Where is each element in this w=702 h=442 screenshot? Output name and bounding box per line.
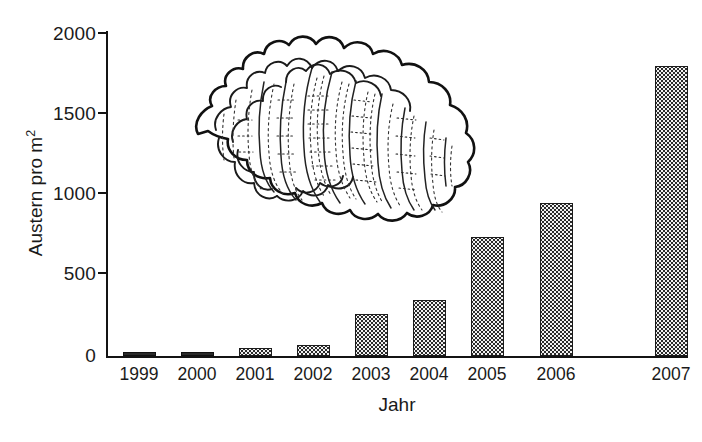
bar-2007: [655, 66, 688, 356]
x-tick-label-2004: 2004: [400, 364, 458, 384]
x-tick-label-2005: 2005: [458, 364, 516, 384]
bar-2000: [181, 352, 214, 356]
bar-2005: [471, 237, 504, 356]
bar-2006: [540, 203, 573, 356]
bar-1999: [123, 352, 156, 356]
bar-2004: [413, 300, 446, 356]
bar-2002: [297, 345, 330, 356]
x-tick-label-2007: 2007: [642, 364, 700, 384]
bar-2001: [239, 348, 272, 356]
bar-2003: [355, 314, 388, 356]
x-tick-label-1999: 1999: [110, 364, 168, 384]
x-tick-label-2003: 2003: [342, 364, 400, 384]
x-tick-label-2000: 2000: [168, 364, 226, 384]
x-axis-title: Jahr: [106, 394, 688, 416]
oyster-density-bar-chart: Austern pro m2 2000 1500 1000 500 0: [0, 0, 702, 442]
x-tick-label-2002: 2002: [284, 364, 342, 384]
x-tick-label-2006: 2006: [527, 364, 585, 384]
x-tick-label-2001: 2001: [226, 364, 284, 384]
